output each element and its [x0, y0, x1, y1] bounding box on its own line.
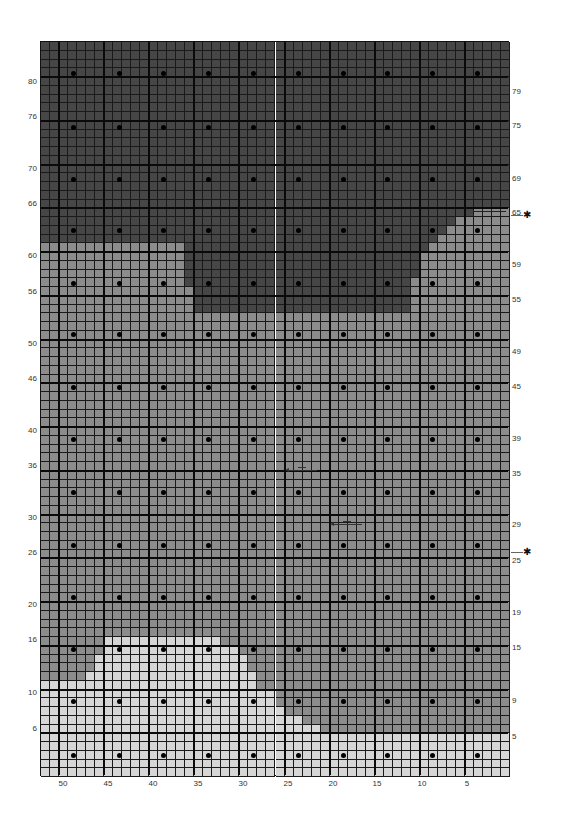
chart-cell [194, 690, 203, 699]
bold-gridline-horizontal [41, 251, 508, 253]
chart-cell [41, 121, 50, 130]
chart-cell [384, 453, 393, 462]
chart-cell [149, 191, 158, 200]
chart-cell [438, 313, 447, 322]
chart-cell [402, 340, 411, 349]
chart-cell [158, 313, 167, 322]
chart-cell [447, 51, 456, 60]
chart-cell [348, 471, 357, 480]
chart-cell [339, 707, 348, 716]
chart-cell [402, 707, 411, 716]
chart-cell [357, 558, 366, 567]
stitch-dot-symbol [430, 437, 435, 442]
chart-cell [501, 672, 510, 681]
chart-cell [312, 515, 321, 524]
chart-cell [221, 751, 230, 760]
chart-cell [294, 523, 303, 532]
chart-cell [303, 567, 312, 576]
chart-cell [420, 383, 429, 392]
chart-cell [212, 226, 221, 235]
chart-cell [194, 42, 203, 51]
chart-cell [221, 357, 230, 366]
chart-cell [221, 655, 230, 664]
chart-cell [294, 217, 303, 226]
chart-cell [257, 716, 266, 725]
chart-cell [474, 366, 483, 375]
chart-cell [68, 340, 77, 349]
chart-cell [339, 252, 348, 261]
chart-cell [474, 585, 483, 594]
chart-cell [393, 42, 402, 51]
chart-cell [122, 130, 131, 139]
chart-cell [59, 733, 68, 742]
chart-cell [221, 558, 230, 567]
chart-cell [420, 742, 429, 751]
chart-cell [203, 453, 212, 462]
chart-cell [104, 672, 113, 681]
chart-cell [420, 515, 429, 524]
chart-cell [501, 383, 510, 392]
chart-cell [294, 165, 303, 174]
chart-cell [393, 751, 402, 760]
chart-cell [68, 620, 77, 629]
chart-cell [41, 628, 50, 637]
chart-cell [203, 410, 212, 419]
chart-cell [474, 655, 483, 664]
chart-cell [303, 515, 312, 524]
chart-cell [501, 217, 510, 226]
chart-cell [384, 515, 393, 524]
chart-cell [465, 252, 474, 261]
chart-cell [402, 698, 411, 707]
chart-cell [212, 147, 221, 156]
chart-cell [420, 655, 429, 664]
chart-cell [285, 620, 294, 629]
stitch-dot-symbol [206, 490, 211, 495]
chart-cell [375, 103, 384, 112]
chart-cell [167, 410, 176, 419]
chart-cell [402, 733, 411, 742]
chart-cell [312, 147, 321, 156]
chart-cell [303, 628, 312, 637]
chart-cell [348, 733, 357, 742]
chart-cell [501, 558, 510, 567]
chart-cell [131, 655, 140, 664]
chart-cell [465, 576, 474, 585]
chart-cell [221, 628, 230, 637]
chart-cell [429, 261, 438, 270]
chart-cell [501, 95, 510, 104]
chart-cell [303, 602, 312, 611]
chart-cell [501, 86, 510, 95]
chart-cell [68, 733, 77, 742]
chart-cell [176, 165, 185, 174]
stitch-dot-symbol [296, 595, 301, 600]
chart-cell [447, 690, 456, 699]
chart-cell [429, 147, 438, 156]
chart-cell [429, 690, 438, 699]
chart-cell [492, 278, 501, 287]
chart-cell [501, 165, 510, 174]
stitch-dot-symbol [475, 753, 480, 758]
chart-cell [429, 217, 438, 226]
chart-cell [393, 628, 402, 637]
chart-cell [339, 270, 348, 279]
chart-cell [176, 751, 185, 760]
chart-cell [393, 497, 402, 506]
chart-cell [77, 611, 86, 620]
chart-cell [203, 130, 212, 139]
chart-cell [357, 716, 366, 725]
chart-cell [77, 497, 86, 506]
chart-cell [221, 541, 230, 550]
chart-cell [348, 628, 357, 637]
chart-cell [393, 270, 402, 279]
chart-cell [257, 296, 266, 305]
chart-cell [203, 392, 212, 401]
chart-cell [41, 672, 50, 681]
chart-cell [465, 716, 474, 725]
chart-cell [221, 261, 230, 270]
chart-cell [384, 103, 393, 112]
chart-cell [59, 182, 68, 191]
chart-cell [393, 235, 402, 244]
chart-cell [212, 42, 221, 51]
chart-cell [402, 392, 411, 401]
chart-cell [194, 707, 203, 716]
